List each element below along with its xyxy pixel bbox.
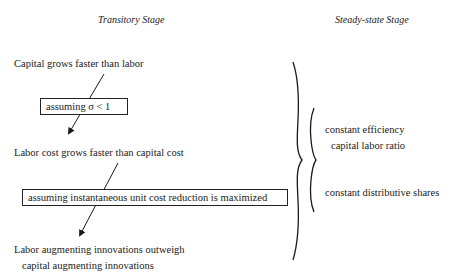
large-brace-icon (293, 62, 302, 260)
steady-constant-efficiency-line2: capital labor ratio (331, 140, 405, 152)
steady-constant-distributive-shares: constant distributive shares (325, 187, 439, 199)
assumption-sigma-box: assuming σ < 1 (40, 98, 128, 115)
transitory-stage-header: Transitory Stage (98, 14, 164, 26)
step-labor-cost-grows: Labor cost grows faster than capital cos… (14, 147, 184, 159)
small-brace-icon (310, 108, 316, 212)
steady-state-stage-header: Steady-state Stage (335, 14, 409, 26)
step-labor-augmenting-line1: Labor augmenting innovations outweigh (14, 244, 185, 256)
assumption-cost-reduction-box: assuming instantaneous unit cost reducti… (22, 189, 288, 206)
step-capital-grows: Capital grows faster than labor (14, 58, 143, 70)
step-labor-augmenting-line2: capital augmenting innovations (22, 260, 154, 272)
steady-constant-efficiency-line1: constant efficiency (325, 124, 404, 136)
